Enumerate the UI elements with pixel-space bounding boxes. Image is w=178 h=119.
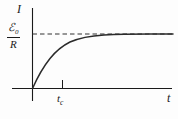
asymptote-numerator: ℰ0 [7,22,20,38]
emf-symbol: ℰ [8,21,15,33]
current-curve [33,34,174,89]
tc-subscript: c [60,98,63,107]
x-tick-label-tc: tc [57,93,63,107]
x-axis-label: t [167,92,170,104]
plot-area [0,0,178,119]
asymptote-value-label: ℰ0 R [7,22,20,50]
emf-subscript: 0 [15,28,19,36]
y-axis-label: I [17,3,21,15]
asymptote-denominator: R [7,38,20,51]
figure-container: I t tc ℰ0 R [0,0,178,119]
